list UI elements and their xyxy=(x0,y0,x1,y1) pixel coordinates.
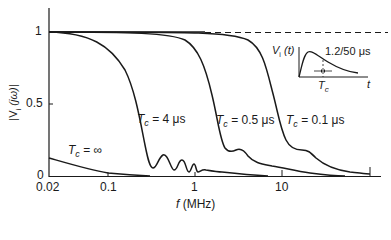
label-tc-0.5us: Tc = 0.5 μs xyxy=(216,113,274,129)
x-axis-title: f (MHz) xyxy=(176,197,215,211)
tc-value: = ∞ xyxy=(80,143,102,157)
tc-value: = 0.1 μs xyxy=(298,113,345,127)
label-tc-4us: Tc = 4 μs xyxy=(137,112,185,128)
inset-t-label: t xyxy=(367,78,370,90)
x-axis-unit: (MHz) xyxy=(179,197,215,211)
x-tick-label-0.02: 0.02 xyxy=(36,180,59,194)
tc-value: = 4 μs xyxy=(149,112,186,126)
x-tick-label-1: 1 xyxy=(191,180,198,194)
inset-tc-sub: c xyxy=(325,85,329,94)
y-tick-label-0.5: 0.5 xyxy=(26,96,43,110)
curve-tc-infinity xyxy=(49,158,150,176)
y-axis-title: |Vi (jω)| xyxy=(7,73,22,133)
x-tick-label-10: 10 xyxy=(275,180,288,194)
tc-value: = 0.5 μs xyxy=(228,113,275,127)
label-tc-0.1us: Tc = 0.1 μs xyxy=(286,113,344,129)
inset-tc: T xyxy=(318,79,325,91)
label-tc-infinity: Tc = ∞ xyxy=(68,143,102,159)
x-tick-label-0.1: 0.1 xyxy=(100,180,117,194)
y-axis-sub: i xyxy=(14,109,23,111)
inset-v-tail: (t) xyxy=(281,44,294,56)
inset-waveform-label: 1.2/50 μs xyxy=(325,45,370,57)
y-axis-v: |V xyxy=(7,111,19,121)
y-axis-tail: (jω)| xyxy=(7,84,19,108)
y-tick-label-1: 1 xyxy=(35,24,42,38)
inset-y-label: Vi (t) xyxy=(272,44,294,58)
inset-tc-label: Tc xyxy=(318,79,329,94)
